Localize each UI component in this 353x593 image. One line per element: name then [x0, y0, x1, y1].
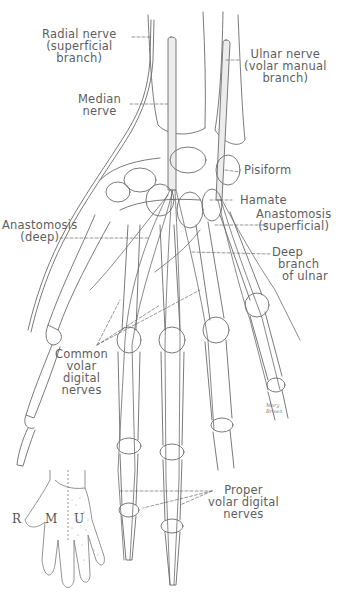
median-nerve-line — [168, 37, 176, 190]
label-anastomosis-deep: Anastomosis (deep) — [2, 219, 77, 243]
inset-label-radial: R — [12, 512, 21, 526]
label-common-volar-digital-nerves: Common volar digital nerves — [55, 348, 108, 396]
inset-label-ulnar: U — [74, 512, 84, 526]
forearm-bones — [148, 12, 245, 144]
hand-illustration — [0, 0, 353, 593]
label-line: nerve — [78, 105, 121, 117]
label-line: (superficial) — [256, 220, 331, 232]
label-line: nerves — [208, 508, 279, 520]
label-proper-volar-digital-nerves: Proper volar digital nerves — [208, 484, 279, 520]
label-line: of ulnar — [272, 270, 328, 282]
ulnar-stipple — [71, 497, 98, 560]
radial-nerve-line — [28, 20, 154, 332]
digital-nerves — [90, 190, 300, 585]
label-anastomosis-superficial: Anastomosis (superficial) — [256, 208, 331, 232]
label-line: Pisiform — [244, 164, 291, 176]
label-radial-nerve: Radial nerve (superficial branch) — [42, 28, 117, 64]
metacarpals — [117, 212, 269, 353]
label-deep-branch-ulnar: Deep branch of ulnar — [272, 246, 328, 282]
label-line: branch) — [42, 52, 117, 64]
hand-nerves-diagram: Radial nerve (superficial branch) Median… — [0, 0, 353, 593]
ulnar-nerve-line — [216, 40, 230, 200]
label-line: nerves — [55, 384, 108, 396]
inset-palm — [25, 470, 104, 588]
label-pisiform: Pisiform — [244, 164, 291, 176]
middle-finger-bones — [160, 352, 184, 585]
label-hamate: Hamate — [240, 194, 287, 206]
label-median-nerve: Median nerve — [78, 93, 121, 117]
label-line: Hamate — [240, 194, 287, 206]
thumb-bones — [17, 215, 110, 466]
inset-label-median: M — [45, 512, 57, 526]
label-line: branch) — [244, 72, 327, 84]
index-finger-bones — [117, 352, 141, 560]
signature-line: Brown — [266, 408, 283, 414]
label-line: (deep) — [2, 231, 77, 243]
artist-signature: Mary Brown — [266, 402, 283, 414]
label-ulnar-nerve: Ulnar nerve (volar manual branch) — [244, 48, 327, 84]
